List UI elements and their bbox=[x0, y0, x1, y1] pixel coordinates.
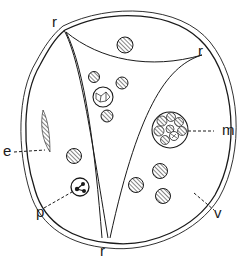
label-r-bottom: r bbox=[100, 243, 105, 258]
label-v: v bbox=[214, 205, 222, 220]
label-p: p bbox=[36, 204, 44, 219]
body-m bbox=[152, 112, 188, 148]
label-m: m bbox=[222, 122, 235, 137]
reticulate-body bbox=[93, 87, 113, 107]
label-r-top-right: r bbox=[198, 43, 203, 58]
label-r-top-left: r bbox=[52, 14, 57, 29]
leader-lines bbox=[14, 131, 214, 210]
body-p bbox=[71, 178, 89, 196]
label-e: e bbox=[3, 143, 11, 158]
epidermis-strip bbox=[42, 110, 50, 152]
cell-diagram bbox=[0, 0, 241, 260]
